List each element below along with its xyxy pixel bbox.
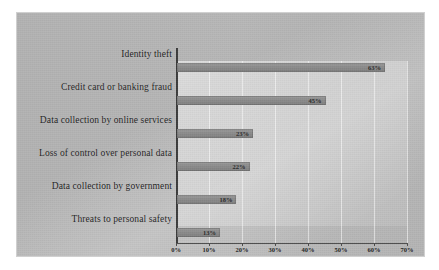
bar-row: Data collection by online services23% [17,114,424,148]
category-label: Threats to personal safety [72,213,172,225]
bar-row: Credit card or banking fraud45% [17,81,424,115]
category-label: Identity theft [121,48,172,60]
category-label: Credit card or banking fraud [61,81,172,93]
category-label: Loss of control over personal data [39,147,172,159]
bar-rows: Identity theft63%Credit card or banking … [17,13,424,256]
bar-row: Data collection by government18% [17,180,424,214]
category-label: Data collection by online services [40,114,172,126]
bar-row: Threats to personal safety13% [17,213,424,247]
bar-value-label: 23% [236,128,249,139]
bar[interactable] [177,96,326,105]
x-tick-label: 0% [171,246,181,253]
x-tick-label: 60% [368,246,381,253]
chart-panel: Identity theft63%Credit card or banking … [17,13,424,256]
bar-value-label: 63% [368,62,381,73]
bar-value-label: 13% [203,227,216,238]
bar[interactable] [177,63,385,72]
bar-row: Loss of control over personal data22% [17,147,424,181]
x-tick-label: 10% [203,246,216,253]
bar-value-label: 18% [219,194,232,205]
bar-value-label: 22% [233,161,246,172]
bar-value-label: 45% [309,95,322,106]
x-tick-label: 40% [302,246,315,253]
category-label: Data collection by government [52,180,172,192]
x-tick-label: 70% [401,246,414,253]
x-tick-label: 50% [335,246,348,253]
bar-row: Identity theft63% [17,48,424,82]
chart-figure: Identity theft63%Credit card or banking … [0,0,439,270]
x-tick-label: 30% [269,246,282,253]
x-tick-label: 20% [236,246,249,253]
